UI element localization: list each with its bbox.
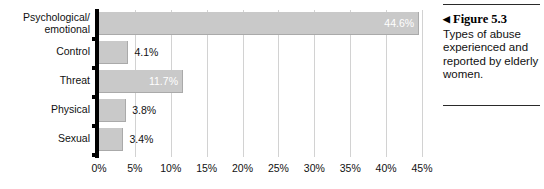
category-label: Physical <box>0 104 90 116</box>
bar <box>99 41 128 64</box>
axis-notch <box>92 95 99 99</box>
bar-row: 3.8% <box>99 99 422 122</box>
caption-rule-top <box>443 4 540 5</box>
axis-notch <box>92 37 99 41</box>
category-axis-labels: Psychological/ emotionalControlThreatPhy… <box>0 10 90 157</box>
caption-heading-text: Figure 5.3 <box>453 12 507 26</box>
bar-row: 4.1% <box>99 41 422 64</box>
bar-row: 3.4% <box>99 128 422 151</box>
bar-row: 11.7% <box>99 70 422 93</box>
bar <box>99 99 126 122</box>
left-triangle-icon: ◀ <box>443 14 450 24</box>
gridline <box>422 10 423 157</box>
x-tick-label: 35% <box>330 162 370 174</box>
x-tick-label: 25% <box>258 162 298 174</box>
category-label: Control <box>0 46 90 58</box>
caption-rule-bottom <box>443 105 540 106</box>
plot-area: 44.6%4.1%11.7%3.8%3.4% <box>99 10 422 157</box>
figure-chart: Psychological/ emotionalControlThreatPhy… <box>0 0 430 189</box>
x-tick-label: 0% <box>79 162 119 174</box>
axis-notch <box>92 66 99 70</box>
bar-row: 44.6% <box>99 12 422 35</box>
category-label: Psychological/ emotional <box>0 12 90 35</box>
x-tick-label: 15% <box>187 162 227 174</box>
x-tick-label: 5% <box>115 162 155 174</box>
bar-value-label: 4.1% <box>134 41 158 64</box>
bar-value-label: 11.7% <box>99 70 178 93</box>
x-tick-label: 30% <box>294 162 334 174</box>
category-label: Sexual <box>0 133 90 145</box>
category-label: Threat <box>0 75 90 87</box>
caption-heading: ◀Figure 5.3 <box>443 12 540 27</box>
axis-notch <box>92 153 99 157</box>
bar-value-label: 44.6% <box>99 12 414 35</box>
bar-value-label: 3.4% <box>129 128 153 151</box>
value-axis-tick-labels: 0%5%10%15%20%25%30%35%40%45% <box>0 162 430 178</box>
x-tick-label: 20% <box>223 162 263 174</box>
figure-caption: ◀Figure 5.3 Types of abuse experienced a… <box>443 4 540 82</box>
axis-notch <box>92 124 99 128</box>
caption-body-text: Types of abuse experienced and reported … <box>443 28 540 82</box>
bar-value-label: 3.8% <box>132 99 156 122</box>
bar <box>99 128 123 151</box>
x-tick-label: 10% <box>151 162 191 174</box>
x-tick-label: 45% <box>402 162 442 174</box>
x-tick-label: 40% <box>366 162 406 174</box>
